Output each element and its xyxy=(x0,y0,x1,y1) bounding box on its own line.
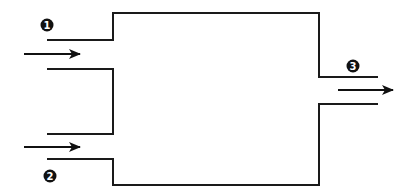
inlet-1: 1 xyxy=(24,19,80,55)
mixing-chamber-diagram: 1 2 3 xyxy=(0,0,413,195)
chamber-middle-wall xyxy=(47,69,113,134)
stream-2-label: 2 xyxy=(47,171,54,182)
stream-3-label: 3 xyxy=(350,61,357,72)
chamber-outline xyxy=(47,13,378,77)
chamber-bottom-wall xyxy=(47,104,378,185)
outlet-3: 3 xyxy=(338,60,393,91)
inlet-2: 2 xyxy=(24,147,80,183)
stream-1-label: 1 xyxy=(44,20,51,31)
